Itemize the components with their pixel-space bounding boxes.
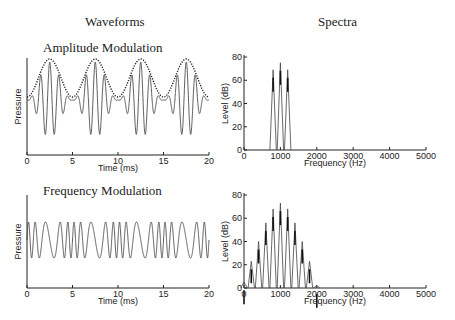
x-tick-label: 0 — [241, 151, 246, 161]
am-waveform-plot — [27, 58, 209, 155]
x-tick-label: 4000 — [380, 289, 400, 299]
x-tick-label: 20 — [204, 289, 214, 299]
x-tick-label: 20 — [204, 156, 214, 166]
x-tick-label: 5000 — [416, 289, 436, 299]
y-tick-label: 20 — [232, 122, 242, 132]
y-axis-label: Level (dB) — [220, 221, 230, 262]
am-spectrum-plot — [244, 55, 426, 150]
x-tick-label: 15 — [158, 156, 168, 166]
y-tick-label: 20 — [232, 260, 242, 270]
x-axis-label: Time (ms) — [98, 296, 138, 306]
figure-canvas: 05101520Time (ms)Pressure05101520Time (m… — [0, 0, 455, 320]
y-tick-label: 40 — [232, 237, 242, 247]
y-tick-label: 0 — [237, 283, 242, 293]
y-tick-label: 0 — [237, 145, 242, 155]
am-envelope-line — [27, 59, 209, 97]
y-tick-label: 40 — [232, 99, 242, 109]
x-tick-label: 1000 — [270, 289, 290, 299]
spectral-peak — [299, 242, 305, 289]
y-tick-label: 60 — [232, 213, 242, 223]
spectral-peak — [255, 242, 261, 289]
x-axis-label: Time (ms) — [98, 163, 138, 173]
x-tick-label: 0 — [24, 289, 29, 299]
x-tick-label: 0 — [241, 289, 246, 299]
x-tick-label: 15 — [158, 289, 168, 299]
x-tick-label: 5000 — [416, 151, 436, 161]
x-tick-label: 5 — [70, 289, 75, 299]
fm-waveform-line — [27, 222, 209, 258]
y-tick-label: 80 — [232, 52, 242, 62]
y-axis-label: Pressure — [13, 88, 23, 124]
x-tick-label: 1000 — [270, 151, 290, 161]
y-tick-label: 60 — [232, 75, 242, 85]
x-axis-label: Frequency (Hz) — [304, 296, 366, 306]
y-tick-label: 80 — [232, 190, 242, 200]
x-tick-label: 5 — [70, 156, 75, 166]
fm-waveform-plot — [27, 195, 209, 288]
x-tick-label: 4000 — [380, 151, 400, 161]
x-axis-label: Frequency (Hz) — [304, 158, 366, 168]
y-axis-label: Pressure — [13, 223, 23, 259]
y-axis-label: Level (dB) — [220, 83, 230, 124]
x-tick-label: 0 — [24, 156, 29, 166]
am-waveform-line — [27, 62, 209, 134]
